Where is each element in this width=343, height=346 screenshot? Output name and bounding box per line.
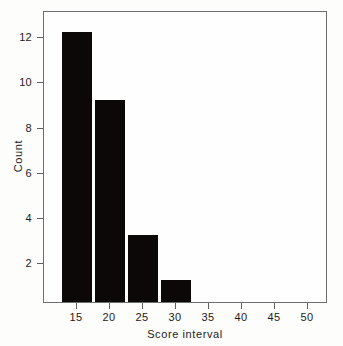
x-tick-label-6: 45 — [257, 311, 291, 323]
y-tick-mark-12 — [37, 37, 43, 38]
x-tick-mark-20 — [109, 303, 110, 309]
y-tick-mark-4 — [37, 218, 43, 219]
bar-20 — [95, 100, 125, 302]
x-tick-label-5: 40 — [224, 311, 258, 323]
x-tick-mark-25 — [142, 303, 143, 309]
x-tick-label-7: 50 — [290, 311, 324, 323]
x-tick-label-0: 15 — [59, 311, 93, 323]
y-tick-label-5: 12 — [10, 31, 32, 43]
x-axis-title: Score interval — [43, 328, 327, 340]
y-tick-mark-2 — [37, 263, 43, 264]
x-tick-mark-35 — [208, 303, 209, 309]
x-tick-label-3: 30 — [158, 311, 192, 323]
plot-area-frame — [43, 11, 327, 303]
x-tick-label-1: 20 — [92, 311, 126, 323]
histogram-figure: 15 20 25 30 35 40 45 50 2 4 6 8 10 12 Sc… — [0, 0, 343, 346]
y-tick-mark-10 — [37, 82, 43, 83]
y-tick-mark-8 — [37, 128, 43, 129]
y-tick-label-1: 4 — [10, 212, 32, 224]
y-axis-title: Count — [12, 126, 24, 186]
bar-15 — [62, 32, 92, 302]
x-tick-mark-15 — [76, 303, 77, 309]
x-tick-label-4: 35 — [191, 311, 225, 323]
x-tick-mark-50 — [307, 303, 308, 309]
y-tick-label-0: 2 — [10, 257, 32, 269]
x-tick-label-2: 25 — [125, 311, 159, 323]
x-tick-mark-30 — [175, 303, 176, 309]
x-tick-mark-45 — [274, 303, 275, 309]
x-tick-mark-40 — [241, 303, 242, 309]
bar-25 — [128, 235, 158, 302]
y-tick-mark-6 — [37, 173, 43, 174]
y-tick-label-4: 10 — [10, 76, 32, 88]
bar-30 — [161, 280, 191, 302]
